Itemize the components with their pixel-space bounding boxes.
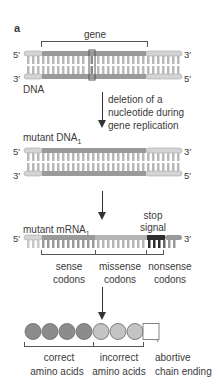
arrow-1-shaft [102,92,103,122]
nonsense-codons-bracket [146,250,164,255]
mutant-dna-bottom-5prime: 5′ [184,170,191,182]
incorrect-amino-acids-bracket [92,342,144,347]
stop-signal-line1: stop [138,210,168,222]
dna-bottom-5prime: 5′ [184,73,191,85]
sense-codons-line1: sense [44,261,94,273]
panel-label: a [14,22,20,34]
nonsense-codons-line2: codons [145,274,195,286]
mrna-3prime: 3′ [184,233,191,245]
dna-bottom-3prime: 3′ [13,73,20,85]
mutant-dna-bottom-3prime: 3′ [13,170,20,182]
figure: a gene [0,0,218,389]
correct-amino-acids-bracket [24,342,94,347]
missense-codons-line1: missense [94,261,146,273]
mutant-dna-top-5prime: 5′ [13,146,20,158]
dna-label: DNA [23,84,44,96]
arrow-2-shaft [102,191,103,214]
incorrect-amino-acids-line2: amino acids [89,366,149,378]
gene-label: gene [80,29,110,41]
arrow-down-icon [98,120,106,128]
missense-codons-bracket [94,250,147,255]
step1-text-line3: gene replication [108,120,179,132]
correct-amino-acids-line1: correct [24,352,94,364]
arrow-3-shaft [102,287,103,314]
amino-acid-chain [0,322,218,342]
abortive-chain-line1: abortive [155,352,191,364]
step1-text-line2: nucleotide during [108,107,184,119]
sense-codons-line2: codons [44,274,94,286]
missense-codons-line2: codons [94,274,146,286]
dna-top-5prime: 5′ [13,49,20,61]
mutant-dna-top-3prime: 3′ [184,146,191,158]
sense-codons-bracket [41,250,96,255]
incorrect-amino-acids-line1: incorrect [89,352,149,364]
correct-amino-acids-line2: amino acids [22,366,92,378]
nonsense-codons-line1: nonsense [145,261,195,273]
dna-top-3prime: 3′ [184,49,191,61]
arrow-down-icon [98,212,106,220]
mrna-5prime: 5′ [13,233,20,245]
abortive-chain-line2: chain ending [155,366,212,378]
arrow-down-icon [98,312,106,320]
step1-text-line1: deletion of a [108,94,163,106]
